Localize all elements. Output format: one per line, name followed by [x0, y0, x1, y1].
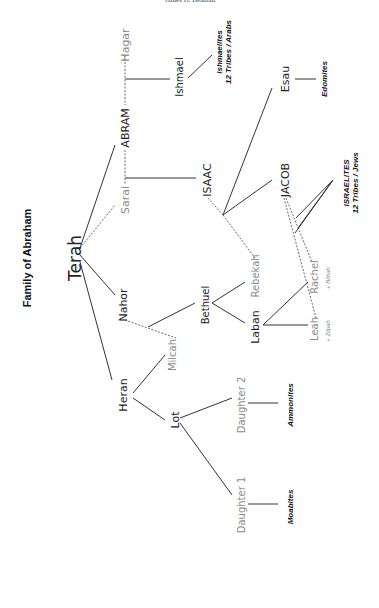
nation-moabites: Moabites	[286, 489, 295, 524]
nation-israelites: ISRAELITES	[342, 159, 351, 207]
person-leah: Leah	[309, 317, 320, 341]
person-lot: Lot	[169, 411, 182, 429]
nation-ishmaelites-sub: 12 Tribes / Arabs	[224, 19, 233, 84]
person-laban: Laban	[249, 310, 262, 344]
person-esau: Esau	[279, 66, 292, 92]
person-rebekah: Rebekah	[250, 254, 261, 297]
connector-lines	[80, 55, 333, 504]
person-bethuel: Bethuel	[200, 286, 211, 325]
nation-ammonites: Ammonites	[286, 383, 295, 428]
nation-labels: Ishmaelites 12 Tribes / Arabs Edomites I…	[215, 19, 360, 524]
family-tree-diagram: James H. Beaman Family of Abraham	[0, 0, 379, 608]
nation-edomites: Edomites	[320, 60, 329, 97]
nation-ishmaelites: Ishmaelites	[215, 30, 224, 74]
people-labels: Terah ABRAM Hagar Sarai Nahor Heran Milc…	[65, 28, 320, 533]
person-daughter-1: Daughter 1	[236, 477, 247, 534]
nation-israelites-sub: 12 Tribes / Jews	[351, 152, 360, 214]
person-nahor: Nahor	[117, 288, 130, 322]
diagram-title: Family of Abraham	[21, 208, 33, 307]
person-ishmael: Ishmael	[174, 57, 185, 96]
running-head: James H. Beaman	[165, 0, 216, 4]
person-isaac: ISAAC	[201, 163, 214, 197]
person-rachel: Rachel	[309, 260, 320, 294]
handmaid-notes: + Bilhah + Zilpah	[325, 266, 331, 341]
person-milcah: Milcah	[167, 339, 178, 371]
note-bilhah: + Bilhah	[325, 266, 331, 289]
person-abram: ABRAM	[119, 108, 132, 147]
person-jacob: JACOB	[279, 163, 292, 198]
person-heran: Heran	[117, 378, 130, 411]
person-sarai: Sarai	[119, 186, 132, 214]
person-daughter-2: Daughter 2	[236, 377, 247, 434]
person-terah: Terah	[65, 235, 85, 282]
note-zilpah: + Zilpah	[325, 320, 331, 342]
person-hagar: Hagar	[119, 28, 132, 62]
